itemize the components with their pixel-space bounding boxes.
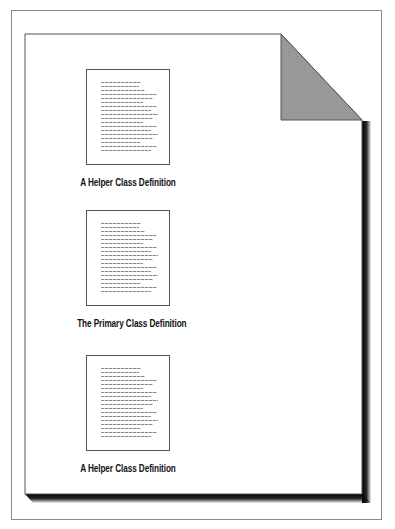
code-thumbnail bbox=[86, 210, 170, 306]
document-page: A Helper Class Definition bbox=[0, 0, 395, 529]
greeked-text-lines bbox=[101, 223, 158, 295]
section-caption: A Helper Class Definition bbox=[77, 463, 179, 474]
section-caption: The Primary Class Definition bbox=[77, 318, 179, 329]
folded-corner bbox=[281, 34, 362, 120]
greeked-text-lines bbox=[101, 368, 158, 440]
page-shadow-bottom bbox=[25, 494, 371, 503]
page-sheet-graphic bbox=[0, 0, 395, 529]
code-thumbnail bbox=[86, 69, 170, 165]
page-shadow-right bbox=[362, 121, 371, 503]
greeked-text-lines bbox=[101, 82, 158, 154]
code-thumbnail bbox=[86, 355, 170, 451]
section-caption: A Helper Class Definition bbox=[77, 177, 179, 188]
